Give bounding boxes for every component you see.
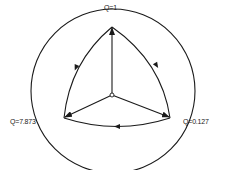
diagram-canvas	[0, 0, 226, 170]
arrow-icon-right-arc	[153, 62, 160, 70]
label-left: Q=7.873	[10, 118, 36, 125]
arc-right-to-left	[64, 118, 170, 127]
arrow-center-to-left	[65, 95, 112, 117]
label-right: Q=0.127	[183, 118, 209, 125]
center-node	[110, 93, 114, 97]
arc-top-to-right	[112, 27, 170, 118]
arc-top-to-left	[64, 27, 112, 118]
arrow-center-to-right	[112, 95, 169, 117]
label-top: Q=1	[104, 4, 117, 11]
arrow-icon-bottom-arc	[114, 124, 120, 129]
outer-circle	[31, 9, 195, 170]
